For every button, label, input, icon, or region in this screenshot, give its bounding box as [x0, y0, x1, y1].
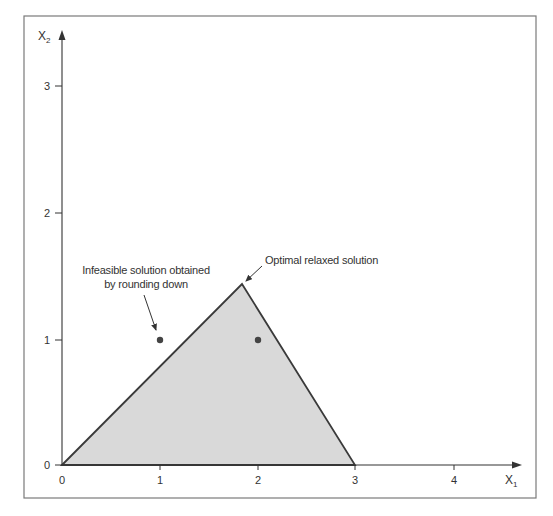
x-tick-label-0: 0 [59, 474, 65, 486]
x-axis-label: X1 [505, 473, 518, 489]
feasible-region [62, 284, 355, 465]
y-tick-label-2: 2 [44, 207, 50, 219]
x-tick-label-2: 2 [255, 474, 261, 486]
diagram-canvas: 0 1 2 3 4 0 1 2 3 X1 X2 Infeasible solut… [0, 0, 553, 516]
infeasible-point [157, 337, 163, 343]
x-tick-label-4: 4 [451, 474, 457, 486]
y-ticks [55, 86, 62, 465]
x-axis-arrow-icon [512, 462, 522, 469]
y-axis-arrow-icon [59, 30, 66, 40]
y-tick-label-0: 0 [44, 459, 50, 471]
y-tick-label-1: 1 [44, 334, 50, 346]
integer-point [255, 337, 261, 343]
annotation-optimal: Optimal relaxed solution [265, 254, 378, 266]
x-tick-label-3: 3 [352, 474, 358, 486]
annotation-infeasible-arrow [144, 295, 156, 330]
annotation-infeasible-line2: by rounding down [104, 278, 188, 290]
x-tick-label-1: 1 [157, 474, 163, 486]
annotation-infeasible-line1: Infeasible solution obtained [82, 264, 210, 276]
y-axis-label: X2 [38, 29, 51, 45]
y-tick-label-3: 3 [44, 80, 50, 92]
annotation-optimal-arrow [246, 266, 262, 281]
